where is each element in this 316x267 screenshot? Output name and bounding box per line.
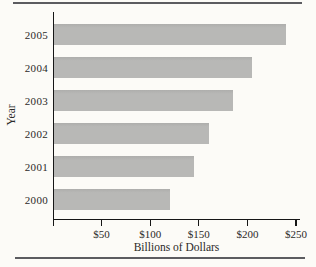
x-tick-mark — [247, 219, 248, 226]
x-tick-mark — [150, 219, 151, 226]
top-rule — [13, 2, 302, 4]
x-tick-label: $250 — [274, 228, 316, 241]
x-tick-mark — [295, 219, 296, 226]
bar — [54, 90, 233, 111]
bottom-rule — [15, 257, 305, 259]
bar-chart-figure: 200520042003200220012000 $50$100$150$200… — [0, 0, 316, 267]
x-axis-title: Billions of Dollars — [53, 241, 300, 253]
bar — [54, 156, 194, 177]
bar — [54, 24, 286, 45]
y-tick-label: 2005 — [0, 28, 48, 42]
x-tick-label: $200 — [225, 228, 269, 241]
bar — [54, 57, 252, 78]
bar — [54, 189, 170, 210]
bar — [54, 123, 209, 144]
x-tick-mark — [101, 219, 102, 226]
x-tick-label: $150 — [177, 228, 221, 241]
x-tick-label: $100 — [128, 228, 172, 241]
x-axis-line — [53, 219, 300, 221]
x-tick-label: $50 — [80, 228, 124, 241]
x-tick-mark — [198, 219, 199, 226]
y-tick-label: 2000 — [0, 193, 48, 207]
y-tick-label: 2004 — [0, 61, 48, 75]
y-axis-title: Year — [4, 93, 18, 137]
y-tick-label: 2001 — [0, 160, 48, 174]
